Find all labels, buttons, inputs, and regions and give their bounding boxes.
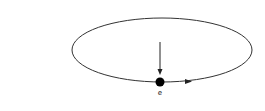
- downward-arrow-icon: [158, 42, 163, 75]
- electron-dot: [156, 78, 165, 87]
- electron-label: e: [158, 89, 162, 97]
- orbit-diagram: e: [0, 0, 265, 111]
- orbit-ellipse: [72, 18, 252, 82]
- tangent-arrow-icon: [185, 79, 192, 84]
